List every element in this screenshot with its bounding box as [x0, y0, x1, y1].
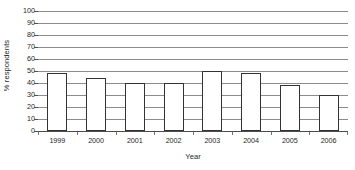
x-tick-label-2003: 2003 [204, 136, 220, 145]
y-axis-tick-labels: 0102030405060708090100 [14, 11, 35, 131]
x-tick-mark-4 [193, 132, 194, 135]
x-tick-label-2002: 2002 [166, 136, 182, 145]
x-tick-mark-1 [77, 132, 78, 135]
y-tick-label-40: 40 [14, 79, 35, 86]
bar-1999 [47, 73, 67, 131]
x-tick-label-2000: 2000 [88, 136, 104, 145]
x-tick-mark-8 [347, 132, 348, 135]
y-tick-label-0: 0 [14, 127, 35, 134]
y-tick-label-30: 30 [14, 91, 35, 98]
y-tick-label-10: 10 [14, 115, 35, 122]
y-tick-label-60: 60 [14, 55, 35, 62]
y-tick-label-100: 100 [14, 7, 35, 14]
bar-2006 [319, 95, 339, 131]
x-tick-mark-3 [154, 132, 155, 135]
x-tick-mark-0 [38, 132, 39, 135]
bar-chart-figure: % respondents 0102030405060708090100 199… [0, 0, 355, 170]
x-tick-label-2001: 2001 [127, 136, 143, 145]
x-axis-tick-marks [38, 132, 348, 135]
x-tick-mark-7 [309, 132, 310, 135]
bar-2000 [86, 78, 106, 131]
x-tick-label-2004: 2004 [243, 136, 259, 145]
bar-2001 [125, 83, 145, 131]
y-tick-label-70: 70 [14, 43, 35, 50]
y-tick-label-20: 20 [14, 103, 35, 110]
x-axis-title: Year [38, 152, 348, 161]
x-axis-tick-labels: 19992000200120022003200420052006 [38, 136, 348, 148]
bar-2003 [202, 71, 222, 131]
y-axis-title: % respondents [0, 0, 14, 131]
x-tick-mark-2 [116, 132, 117, 135]
y-tick-label-50: 50 [14, 67, 35, 74]
bar-2005 [280, 85, 300, 131]
x-tick-label-1999: 1999 [49, 136, 65, 145]
bar-2004 [241, 73, 261, 131]
x-tick-label-2006: 2006 [321, 136, 337, 145]
bar-2002 [164, 83, 184, 131]
bars-layer [38, 11, 348, 131]
y-tick-label-90: 90 [14, 19, 35, 26]
x-tick-label-2005: 2005 [282, 136, 298, 145]
y-axis-title-label: % respondents [3, 40, 12, 91]
plot-area [38, 11, 348, 131]
y-tick-label-80: 80 [14, 31, 35, 38]
x-tick-mark-6 [271, 132, 272, 135]
x-tick-mark-5 [232, 132, 233, 135]
